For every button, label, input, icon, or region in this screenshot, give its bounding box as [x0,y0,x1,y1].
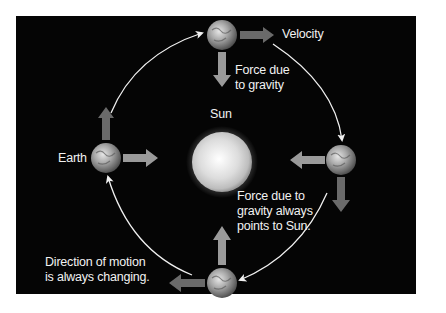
sun [186,126,258,198]
force-always-label-line2: gravity always [237,204,313,219]
velocity-arrow-bottom [169,274,205,292]
earth-top [207,20,237,50]
force-always-label-line3: points to Sun. [237,219,311,234]
direction-label-line1: Direction of motion [45,255,145,270]
gravity-arrow-bottom [213,226,231,265]
velocity-arrow-top [240,27,274,43]
velocity-arrow-right [332,177,350,212]
earth-left [91,143,121,173]
sun-label: Sun [210,107,232,122]
earth-label: Earth [58,151,87,166]
earth-bottom [207,268,237,298]
earth-right [326,145,356,175]
force-always-label-line1: Force due to [237,189,305,204]
gravity-arrow-top [213,52,231,87]
direction-label-line2: is always changing. [45,270,150,285]
force-top-label-line2: to gravity [235,78,284,93]
gravity-arrow-left [123,149,158,167]
force-top-label-line1: Force due [235,63,289,78]
velocity-label: Velocity [282,27,323,42]
gravity-arrow-right [290,151,325,169]
